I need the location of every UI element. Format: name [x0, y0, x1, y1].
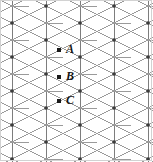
- label-point-markers: [57, 48, 61, 103]
- point-c-marker: [57, 99, 61, 103]
- lattice-figure: ABC: [0, 0, 153, 162]
- point-b-marker: [57, 75, 61, 79]
- point-c-label: C: [66, 94, 74, 106]
- lattice-diagram: [0, 0, 153, 162]
- lattice-lines: [0, 0, 153, 162]
- point-a-label: A: [66, 43, 74, 55]
- point-a-marker: [57, 48, 61, 52]
- point-b-label: B: [66, 70, 74, 82]
